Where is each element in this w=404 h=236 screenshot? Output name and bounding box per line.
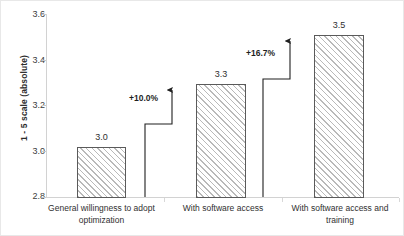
x-category-label-3: With software access and training [279, 203, 401, 226]
plot-area: 3.0 3.3 3.5 [1, 1, 404, 236]
bar-value-label-1: 3.0 [77, 132, 126, 142]
growth-label-1: +10.0% [129, 93, 158, 103]
bar-value-label-3: 3.5 [314, 20, 364, 30]
x-category-label-1-line2: optimization [37, 215, 166, 227]
x-category-label-1-line1: General willingness to adopt [37, 203, 166, 215]
bar-chart-figure: 1 - 5 scale (absolute) 3.6 3.4 3.2 3.0 2… [0, 0, 404, 236]
x-category-label-2: With software access [161, 203, 285, 215]
growth-label-2: +16.7% [246, 48, 275, 58]
x-category-label-3-line2: training [279, 215, 401, 227]
bar-with-software-access-and-training[interactable] [314, 35, 364, 198]
bar-with-software-access[interactable] [196, 84, 246, 198]
x-category-label-3-line1: With software access and [279, 203, 401, 215]
bar-general-willingness[interactable] [77, 147, 126, 198]
bar-value-label-2: 3.3 [196, 69, 246, 79]
x-category-label-2-line1: With software access [161, 203, 285, 215]
x-category-label-1: General willingness to adopt optimizatio… [37, 203, 166, 226]
